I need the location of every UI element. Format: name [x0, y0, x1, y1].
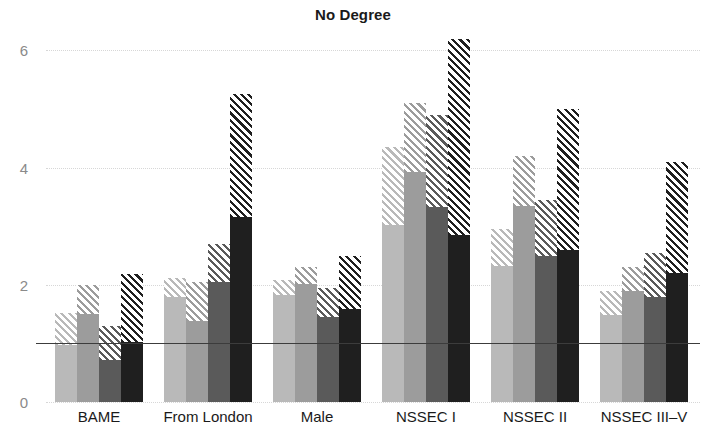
x-axis-tick-label: BAME: [78, 408, 121, 425]
bar: [317, 288, 339, 402]
bar-confidence-interval: [535, 200, 557, 256]
bar: [491, 229, 513, 402]
bar: [666, 162, 688, 402]
bar: [600, 291, 622, 402]
plot-area: [36, 24, 700, 402]
bar-estimate: [121, 342, 143, 402]
x-axis-tick-label: NSSEC III–V: [601, 408, 688, 425]
bar-confidence-interval: [121, 274, 143, 341]
bar-estimate: [55, 345, 77, 402]
bar-group: [55, 24, 143, 402]
x-axis-tick-label: NSSEC I: [396, 408, 456, 425]
bar-confidence-interval: [644, 253, 666, 297]
bar-confidence-interval: [317, 288, 339, 317]
bar: [448, 39, 470, 402]
bar-estimate: [164, 297, 186, 402]
bar: [208, 244, 230, 402]
chart-root: No Degree 0246BAMEFrom LondonMaleNSSEC I…: [0, 0, 706, 447]
bar: [121, 274, 143, 402]
bar-confidence-interval: [273, 280, 295, 295]
bar: [164, 278, 186, 402]
y-axis-tick-label: 0: [0, 394, 28, 411]
bar-estimate: [491, 266, 513, 402]
bar-confidence-interval: [186, 282, 208, 321]
bar-estimate: [622, 291, 644, 402]
bar-confidence-interval: [491, 229, 513, 266]
bar-confidence-interval: [622, 267, 644, 290]
bar: [339, 256, 361, 403]
bar-confidence-interval: [426, 115, 448, 208]
bar-confidence-interval: [600, 291, 622, 316]
x-axis-tick-label: Male: [301, 408, 334, 425]
bar-estimate: [382, 225, 404, 402]
bar-estimate: [186, 321, 208, 402]
bar-estimate: [535, 256, 557, 403]
bar-confidence-interval: [666, 162, 688, 273]
bar: [557, 109, 579, 402]
bar-estimate: [426, 207, 448, 402]
y-axis-tick-label: 2: [0, 276, 28, 293]
bar-estimate: [99, 360, 121, 402]
bar: [644, 253, 666, 402]
bar-group: [382, 24, 470, 402]
bar-confidence-interval: [448, 39, 470, 235]
bar: [382, 147, 404, 402]
bar-group: [164, 24, 252, 402]
bar: [535, 200, 557, 402]
bar: [230, 94, 252, 402]
bar-estimate: [557, 250, 579, 402]
bar: [55, 313, 77, 402]
x-axis-tick-label: From London: [163, 408, 252, 425]
chart-title: No Degree: [0, 6, 706, 23]
y-axis-tick-label: 6: [0, 42, 28, 59]
bar: [186, 282, 208, 402]
bar-estimate: [666, 273, 688, 402]
bar: [513, 156, 535, 402]
bar-estimate: [404, 172, 426, 402]
bar: [622, 267, 644, 402]
bar-confidence-interval: [230, 94, 252, 217]
bar-estimate: [448, 235, 470, 402]
bar-estimate: [230, 217, 252, 402]
bar-confidence-interval: [404, 103, 426, 172]
y-axis-tick-label: 4: [0, 159, 28, 176]
bar: [99, 326, 121, 402]
y-gridline: [46, 402, 700, 403]
bar-estimate: [317, 317, 339, 402]
bar-estimate: [273, 295, 295, 402]
bar-group: [600, 24, 688, 402]
bar-confidence-interval: [295, 267, 317, 283]
bar-estimate: [208, 282, 230, 402]
bar-estimate: [600, 315, 622, 402]
bar-estimate: [77, 314, 99, 402]
x-axis-tick-label: NSSEC II: [503, 408, 567, 425]
bar-confidence-interval: [55, 313, 77, 345]
bar: [426, 115, 448, 402]
bar-confidence-interval: [77, 285, 99, 314]
bar-confidence-interval: [382, 147, 404, 225]
bar-group: [491, 24, 579, 402]
bar-confidence-interval: [513, 156, 535, 206]
bar: [404, 103, 426, 402]
bar: [295, 267, 317, 402]
bar-confidence-interval: [339, 256, 361, 310]
bar-estimate: [339, 309, 361, 402]
bar-confidence-interval: [164, 278, 186, 297]
bar-confidence-interval: [208, 244, 230, 282]
bar: [273, 280, 295, 402]
bar-estimate: [644, 297, 666, 402]
bar-estimate: [513, 206, 535, 402]
bar-confidence-interval: [557, 109, 579, 250]
reference-line: [36, 343, 700, 344]
bar-group: [273, 24, 361, 402]
